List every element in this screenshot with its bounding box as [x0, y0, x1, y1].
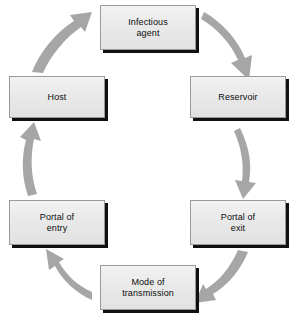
- node-infectious-agent: Infectious agent: [100, 5, 196, 50]
- node-portal-of-entry-label: Portal of entry: [38, 212, 76, 234]
- chain-of-infection-diagram: Infectious agent Reservoir Portal of exi…: [0, 0, 297, 321]
- node-infectious-agent-label: Infectious agent: [126, 17, 170, 39]
- arrow-reservoir-to-exit-icon: [234, 128, 256, 199]
- node-portal-of-exit: Portal of exit: [190, 200, 286, 245]
- arrow-entry-to-host-icon: [20, 122, 41, 196]
- node-mode-of-transmission-label: Mode of transmission: [120, 277, 176, 299]
- node-reservoir: Reservoir: [190, 76, 286, 118]
- arrow-host-to-agent-icon: [32, 12, 92, 73]
- node-host: Host: [9, 76, 105, 118]
- node-host-label: Host: [46, 92, 69, 103]
- node-reservoir-label: Reservoir: [216, 92, 259, 103]
- arrow-transmission-to-entry-icon: [46, 249, 92, 300]
- arrow-exit-to-transmission-icon: [195, 250, 248, 303]
- node-mode-of-transmission: Mode of transmission: [100, 265, 196, 310]
- arrow-agent-to-reservoir-icon: [201, 12, 252, 80]
- node-portal-of-entry: Portal of entry: [9, 200, 105, 245]
- node-portal-of-exit-label: Portal of exit: [219, 212, 257, 234]
